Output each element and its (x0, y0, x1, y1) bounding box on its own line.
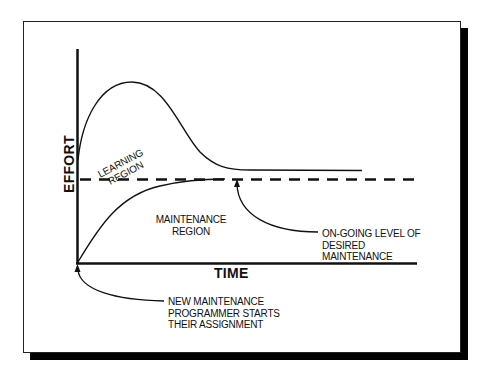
y-axis-label: EFFORT (61, 143, 77, 193)
start-pointer (78, 270, 164, 301)
start-annotation: NEW MAINTENANCE PROGRAMMER STARTS THEIR … (168, 296, 280, 331)
maintenance-line-2: REGION (150, 226, 232, 238)
annotation-line: ON-GOING LEVEL OF (322, 228, 420, 240)
maintenance-region-label: MAINTENANCE REGION (150, 214, 232, 237)
maintenance-line-1: MAINTENANCE (150, 214, 232, 226)
annotation-line: MAINTENANCE (322, 251, 420, 263)
desired-level-pointer (237, 184, 318, 232)
x-axis-label: TIME (214, 265, 249, 281)
desired-level-annotation: ON-GOING LEVEL OF DESIRED MAINTENANCE (322, 228, 420, 263)
annotation-line: DESIRED (322, 240, 420, 252)
annotation-line: PROGRAMMER STARTS (168, 308, 280, 320)
annotation-line: THEIR ASSIGNMENT (168, 319, 280, 331)
annotation-line: NEW MAINTENANCE (168, 296, 280, 308)
arrowhead-icon (75, 264, 81, 272)
